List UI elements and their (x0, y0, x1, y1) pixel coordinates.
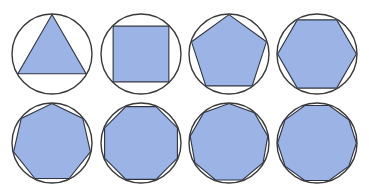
nonagon-in-circle (189, 103, 269, 183)
square-polygon (113, 26, 169, 82)
nonagon-polygon (190, 104, 268, 180)
shapes-layer (12, 14, 357, 183)
decagon-in-circle (277, 103, 357, 183)
decagon-polygon (278, 106, 357, 181)
octagon-polygon (105, 107, 178, 180)
hexagon-polygon (278, 20, 357, 88)
hexagon-in-circle (277, 14, 357, 94)
heptagon-in-circle (12, 103, 92, 183)
heptagon-polygon (14, 104, 91, 179)
inscribed-polygons-figure (0, 0, 369, 192)
square-in-circle (101, 14, 181, 94)
pentagon-polygon (192, 15, 267, 86)
triangle-polygon (18, 15, 86, 74)
pentagon-in-circle (189, 14, 269, 94)
triangle-in-circle (12, 14, 92, 94)
octagon-in-circle (101, 103, 181, 183)
